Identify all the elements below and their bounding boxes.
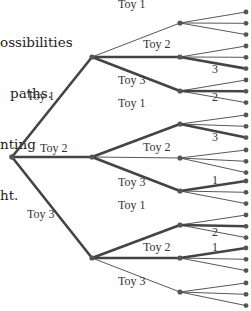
- level2-label: Toy 1: [118, 0, 146, 11]
- leaf-node: [244, 201, 249, 206]
- root-node: [9, 154, 15, 160]
- leaf-edge: [180, 191, 246, 204]
- leaf-node: [244, 148, 249, 153]
- leaf-edge: [180, 191, 246, 192]
- leaf-node: [244, 190, 249, 195]
- level2-label: Toy 1: [118, 198, 146, 212]
- leaf-node: [244, 113, 249, 118]
- path-count-label: 2: [212, 225, 218, 239]
- leaf-node: [244, 32, 249, 37]
- branch-node: [177, 20, 182, 25]
- branch-node: [177, 289, 182, 294]
- level1-label: Toy 1: [27, 89, 55, 103]
- branch-node: [177, 222, 182, 227]
- level2-label: Toy 2: [143, 140, 171, 154]
- leaf-node: [244, 100, 249, 105]
- level2-label: Toy 3: [118, 175, 146, 189]
- leaf-node: [244, 78, 249, 83]
- leaf-edge: [180, 258, 246, 259]
- branch-node: [177, 188, 182, 193]
- branch-node: [177, 155, 182, 160]
- leaf-node: [244, 179, 249, 184]
- path-count-label: 1: [212, 173, 218, 187]
- branch-node: [89, 54, 94, 59]
- leaf-edge: [180, 158, 246, 161]
- path-count-label: 2: [212, 90, 218, 104]
- branch-node: [177, 121, 182, 126]
- path-count-label: 3: [212, 130, 218, 144]
- level2-label: Toy 2: [143, 37, 171, 51]
- leaf-edge: [180, 150, 246, 158]
- leaf-node: [244, 10, 249, 15]
- leaf-node: [244, 135, 249, 140]
- leaf-node: [244, 268, 249, 273]
- leaf-node: [244, 281, 249, 286]
- leaf-node: [244, 89, 249, 94]
- leaf-node: [244, 246, 249, 251]
- level1-label: Toy 3: [27, 207, 55, 221]
- leaf-edge: [180, 12, 246, 23]
- leaf-node: [244, 257, 249, 262]
- level2-label: Toy 1: [118, 96, 146, 110]
- path-count-label: 1: [212, 240, 218, 254]
- level2-label: Toy 3: [118, 274, 146, 288]
- leaf-node: [244, 124, 249, 129]
- leaf-edge: [180, 215, 246, 225]
- leaf-node: [244, 21, 249, 26]
- leaf-edge: [180, 258, 246, 271]
- leaf-edge: [180, 23, 246, 35]
- leaf-node: [244, 235, 249, 240]
- branch-edge: [92, 157, 180, 158]
- branch-node: [177, 54, 182, 59]
- leaf-node: [244, 292, 249, 297]
- level2-label: Toy 2: [143, 240, 171, 254]
- leaf-node: [244, 55, 249, 60]
- leaf-edge: [180, 158, 246, 173]
- leaf-node: [244, 303, 249, 308]
- branch-node: [89, 255, 94, 260]
- leaf-node: [244, 159, 249, 164]
- path-count-label: 3: [212, 62, 218, 76]
- leaf-edge: [180, 115, 246, 124]
- leaf-node: [244, 213, 249, 218]
- leaf-node: [244, 44, 249, 49]
- level1-label: Toy 2: [40, 141, 68, 155]
- branch-node: [177, 255, 182, 260]
- branch-node: [177, 88, 182, 93]
- branch-node: [89, 154, 94, 159]
- tree-diagram: 323121Toy 1Toy 2Toy 3Toy 1Toy 2Toy 3Toy …: [0, 0, 251, 311]
- leaf-node: [244, 170, 249, 175]
- leaf-node: [244, 66, 249, 71]
- leaf-edge: [180, 46, 246, 57]
- leaf-node: [244, 224, 249, 229]
- level2-label: Toy 3: [118, 73, 146, 87]
- leaf-edge: [180, 283, 246, 292]
